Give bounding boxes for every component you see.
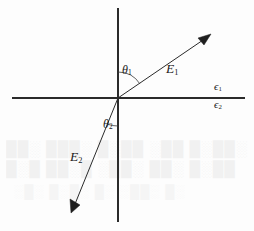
vector-diagram-figure: ██░ ███░ █░██ ░██ █░██░ █░█ ██░█ ░██░ ██…	[0, 0, 254, 231]
e1-symbol: E	[166, 61, 174, 76]
epsilon2-subscript: 2	[218, 103, 221, 110]
theta2-label: θ2	[103, 118, 113, 131]
theta1-label: θ1	[122, 64, 132, 77]
e2-subscript: 2	[78, 156, 82, 165]
e1-subscript: 1	[174, 68, 178, 77]
e1-arrowhead	[198, 34, 211, 45]
e1-vector	[118, 34, 211, 98]
e2-arrowhead	[70, 199, 80, 213]
epsilon1-subscript: 1	[218, 85, 221, 92]
theta1-subscript: 1	[128, 68, 132, 77]
diagram-canvas	[0, 0, 254, 231]
e2-label: E2	[70, 150, 82, 165]
epsilon1-label: ϵ1	[214, 81, 222, 93]
epsilon2-label: ϵ2	[214, 99, 222, 111]
e1-label: E1	[166, 62, 178, 77]
e2-symbol: E	[70, 149, 78, 164]
theta2-subscript: 2	[109, 122, 113, 131]
